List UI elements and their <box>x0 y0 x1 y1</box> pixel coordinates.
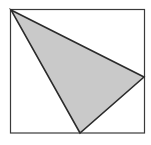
geometry-diagram <box>0 0 151 145</box>
figure-container <box>0 0 151 145</box>
